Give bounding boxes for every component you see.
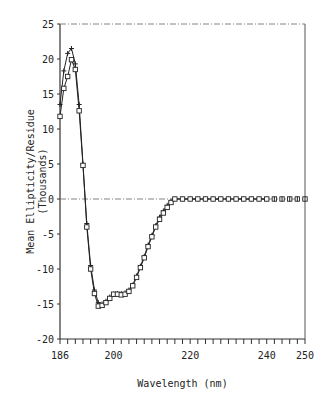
square-marker [58,114,62,118]
square-marker [165,205,169,209]
square-marker [161,211,165,215]
x-tick-label: 200 [105,350,123,361]
square-marker [257,197,261,201]
square-marker [219,197,223,201]
square-marker [88,267,92,271]
y-tick-label: 20 [42,54,54,65]
square-marker [196,197,200,201]
square-marker [157,217,161,221]
square-marker [146,244,150,248]
square-marker [69,58,73,62]
y-axis-title: Mean Ellipticity/Residue [25,109,36,254]
chart-canvas: 2520151050-5-10-15-20186200220240250Wave… [0,0,326,398]
y-tick-label: -20 [36,334,54,345]
square-marker [104,300,108,304]
square-marker [234,197,238,201]
square-marker [92,291,96,295]
y-tick-label: 5 [48,159,54,170]
x-tick-label: 220 [181,350,199,361]
plus-marker [61,68,66,73]
square-marker [226,197,230,201]
y-tick-label: 15 [42,89,54,100]
y-tick-label: -5 [42,229,54,240]
square-marker [188,197,192,201]
square-marker [127,289,131,293]
y-tick-label: 25 [42,19,54,30]
square-marker [131,284,135,288]
square-marker [62,86,66,90]
square-marker [180,197,184,201]
y-axis-subtitle: (Thousands) [37,148,48,214]
square-marker [173,197,177,201]
x-tick-label: 240 [258,350,276,361]
square-marker [142,256,146,260]
square-marker [249,197,253,201]
square-marker [77,109,81,113]
y-tick-label: -10 [36,264,54,275]
square-marker [85,225,89,229]
square-marker [154,225,158,229]
square-marker [242,197,246,201]
square-marker [265,197,269,201]
x-axis-title: Wavelength (nm) [137,378,227,389]
y-tick-label: 0 [48,194,54,205]
square-marker [211,197,215,201]
x-tick-label: 250 [296,350,314,361]
y-tick-label: 10 [42,124,54,135]
y-tick-label: -15 [36,299,54,310]
square-marker [150,235,154,239]
square-marker [108,296,112,300]
square-marker [81,163,85,167]
square-marker [203,197,207,201]
square-marker [73,67,77,71]
x-tick-label: 186 [51,350,69,361]
square-marker [138,265,142,269]
cd-spectrum-chart: 2520151050-5-10-15-20186200220240250Wave… [0,0,326,398]
square-marker [134,275,138,279]
square-marker [65,74,69,78]
